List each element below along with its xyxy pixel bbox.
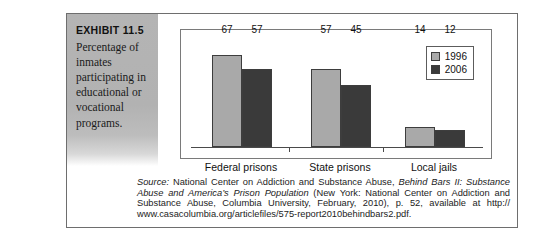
bar-value-federal-2006: 57 <box>251 24 262 35</box>
source-citation: Source: National Center on Addiction and… <box>137 177 510 220</box>
chart-legend: 1996 2006 <box>426 46 474 80</box>
bar-local-2006 <box>435 130 465 147</box>
bar-wrap-federal-1996: 67 <box>212 37 242 147</box>
source-line-1: Source: National Center on Addiction and… <box>137 177 510 188</box>
bar-federal-2006 <box>242 69 272 147</box>
exhibit-caption-panel: EXHIBIT 11.5 Percentage of inmates parti… <box>67 14 158 166</box>
axis-tick-1 <box>289 148 290 152</box>
bar-wrap-state-1996: 57 <box>311 37 341 147</box>
bar-state-2006 <box>341 85 371 147</box>
bar-wrap-federal-2006: 57 <box>242 37 272 147</box>
source-title-part-1: Behind Bars II: Substance <box>398 177 510 187</box>
source-line-2-rest: (New York: National Center on Addiction … <box>309 188 510 198</box>
bar-value-state-1996: 57 <box>320 24 331 35</box>
source-line-1-rest: National Center on Addiction and Substan… <box>169 177 398 187</box>
source-line-3: Substance Abuse, Columbia University, Fe… <box>137 198 510 209</box>
bar-federal-1996 <box>212 55 242 147</box>
legend-swatch-2006-icon <box>431 65 440 74</box>
bar-value-state-2006: 45 <box>350 24 361 35</box>
bar-value-federal-1996: 67 <box>221 24 232 35</box>
bar-value-local-1996: 14 <box>414 24 425 35</box>
source-title-part-2: Abuse and America’s Prison Population <box>137 188 309 198</box>
source-line-2: Abuse and America’s Prison Population (N… <box>137 188 510 199</box>
category-label-federal-prisons: Federal prisons <box>205 161 277 173</box>
bar-state-1996 <box>311 69 341 147</box>
legend-label-2006: 2006 <box>445 63 467 76</box>
category-label-state-prisons: State prisons <box>309 161 370 173</box>
legend-item-2006: 2006 <box>431 63 467 76</box>
source-prefix: Source: <box>137 177 169 187</box>
legend-item-1996: 1996 <box>431 50 467 63</box>
exhibit-number: EXHIBIT 11.5 <box>76 24 150 37</box>
bar-value-local-2006: 12 <box>444 24 455 35</box>
chart-category-labels: Federal prisons State prisons Local jail… <box>180 161 492 177</box>
axis-tick-2 <box>383 148 384 152</box>
bar-group-federal-prisons: 67 57 <box>209 37 275 147</box>
source-line-4: www.casacolumbia.org/articlefiles/575-re… <box>137 209 510 220</box>
chart-plot-area: 67 57 57 45 <box>191 38 483 148</box>
exhibit-caption-text: Percentage of inmates participating in e… <box>76 40 150 131</box>
bar-wrap-state-2006: 45 <box>341 37 371 147</box>
category-label-local-jails: Local jails <box>411 161 457 173</box>
bar-local-1996 <box>405 127 435 147</box>
bar-group-state-prisons: 57 45 <box>308 37 374 147</box>
chart-baseline-axis <box>191 147 483 148</box>
legend-label-1996: 1996 <box>445 50 467 63</box>
bar-chart: 67 57 57 45 <box>180 29 492 159</box>
exhibit-frame: EXHIBIT 11.5 Percentage of inmates parti… <box>66 13 518 228</box>
legend-swatch-1996-icon <box>431 52 440 61</box>
